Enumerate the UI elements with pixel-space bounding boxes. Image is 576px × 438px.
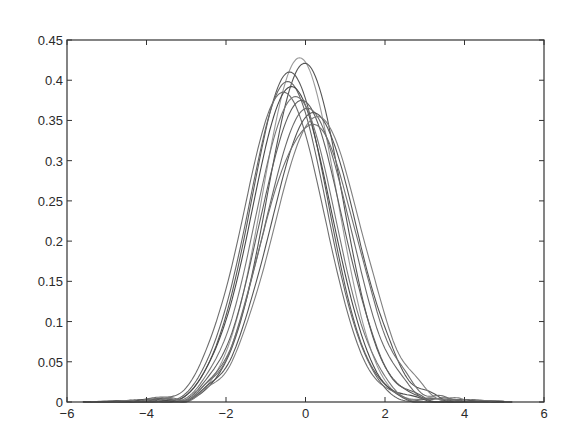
y-tick-label: 0.3 [45, 154, 63, 169]
density-curve [99, 92, 504, 402]
y-tick-label: 0.45 [38, 33, 63, 48]
density-curve [99, 108, 512, 402]
density-curve [91, 117, 496, 402]
x-tick-label: 2 [381, 406, 388, 421]
density-curve [99, 124, 489, 402]
density-curve [99, 72, 497, 402]
x-tick-label: −2 [219, 406, 234, 421]
plot-frame [67, 40, 544, 402]
y-tick-label: 0.1 [45, 315, 63, 330]
y-tick-label: 0.35 [38, 113, 63, 128]
density-curves [83, 58, 512, 402]
density-curve [83, 97, 496, 403]
y-axis: 00.050.10.150.20.250.30.350.40.45 [38, 33, 544, 410]
x-tick-label: 0 [302, 406, 309, 421]
x-tick-label: −4 [139, 406, 154, 421]
y-tick-label: 0.25 [38, 194, 63, 209]
density-curve [83, 82, 488, 403]
y-tick-label: 0.4 [45, 73, 63, 88]
density-chart: −6−4−20246 00.050.10.150.20.250.30.350.4… [0, 0, 576, 438]
y-tick-label: 0.05 [38, 355, 63, 370]
y-tick-label: 0.15 [38, 274, 63, 289]
density-curve [91, 63, 504, 402]
density-curve [91, 100, 488, 402]
x-tick-label: 6 [540, 406, 547, 421]
x-axis: −6−4−20246 [60, 40, 548, 421]
x-tick-label: 4 [461, 406, 468, 421]
y-tick-label: 0 [56, 395, 63, 410]
y-tick-label: 0.2 [45, 234, 63, 249]
